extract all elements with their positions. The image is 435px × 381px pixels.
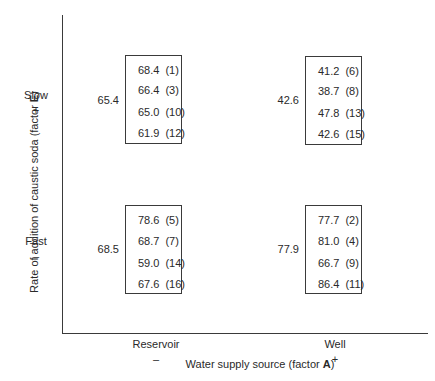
obs-value: 68.4 [138, 64, 159, 76]
run-number: (13) [345, 107, 365, 119]
obs-value: 86.4 [318, 278, 339, 290]
observation: 66.4(3) [138, 84, 179, 96]
observation: 61.9(12) [138, 127, 185, 139]
run-number: (5) [165, 214, 178, 226]
data-box-reservoir-fast: 78.6(5) 68.7(7) 59.0(14) 67.6(16) [125, 205, 182, 294]
observation: 67.6(16) [138, 278, 185, 290]
observation: 66.7(9) [318, 257, 359, 269]
x-axis-line [62, 333, 428, 334]
observation: 86.4(11) [318, 278, 364, 290]
run-number: (8) [345, 85, 358, 97]
run-number: (16) [165, 278, 185, 290]
observation: 77.7(2) [318, 214, 359, 226]
run-number: (1) [165, 64, 178, 76]
observation: 59.0(14) [138, 257, 185, 269]
run-number: (14) [165, 257, 185, 269]
y-level-label: Fast [18, 234, 54, 249]
data-box-reservoir-slow: 68.4(1) 66.4(3) 65.0(10) 61.9(12) [125, 55, 182, 144]
observation: 38.7(8) [318, 85, 359, 97]
observation: 68.7(7) [138, 235, 179, 247]
obs-value: 81.0 [318, 235, 339, 247]
y-level-sign: + [18, 103, 54, 118]
obs-value: 68.7 [138, 235, 159, 247]
y-title-text: Rate of addition of caustic soda (factor [28, 102, 40, 293]
x-title-text: Water supply source (factor [186, 358, 323, 370]
obs-value: 66.7 [318, 257, 339, 269]
observation: 42.6(15) [318, 128, 365, 140]
x-axis-title: Water supply source (factor A) [150, 358, 370, 370]
data-box-well-slow: 41.2(6) 38.7(8) 47.8(13) 42.6(15) [305, 56, 362, 145]
obs-value: 42.6 [318, 128, 339, 140]
cell-mean-reservoir-slow: 65.4 [83, 94, 119, 106]
y-level-sign: – [18, 249, 54, 264]
observation: 65.0(10) [138, 106, 185, 118]
obs-value: 78.6 [138, 214, 159, 226]
observation: 68.4(1) [138, 64, 179, 76]
run-number: (15) [345, 128, 365, 140]
obs-value: 59.0 [138, 257, 159, 269]
observation: 41.2(6) [318, 65, 359, 77]
y-axis-line [62, 15, 63, 333]
x-title-suffix: ) [331, 358, 335, 370]
run-number: (6) [345, 65, 358, 77]
observation: 81.0(4) [318, 235, 359, 247]
run-number: (4) [345, 235, 358, 247]
x-title-factor: A [323, 358, 331, 370]
cell-mean-well-fast: 77.9 [263, 243, 299, 255]
y-level-fast: Fast – [18, 234, 54, 264]
obs-value: 47.8 [318, 107, 339, 119]
cell-mean-reservoir-fast: 68.5 [83, 243, 119, 255]
run-number: (9) [345, 257, 358, 269]
observation: 47.8(13) [318, 107, 365, 119]
cell-mean-well-slow: 42.6 [263, 94, 299, 106]
obs-value: 66.4 [138, 84, 159, 96]
obs-value: 65.0 [138, 106, 159, 118]
obs-value: 67.6 [138, 278, 159, 290]
x-level-label: Well [310, 337, 360, 352]
x-level-label: Reservoir [126, 337, 186, 352]
obs-value: 41.2 [318, 65, 339, 77]
run-number: (2) [345, 214, 358, 226]
data-box-well-fast: 77.7(2) 81.0(4) 66.7(9) 86.4(11) [305, 205, 362, 294]
run-number: (7) [165, 235, 178, 247]
run-number: (3) [165, 84, 178, 96]
obs-value: 38.7 [318, 85, 339, 97]
run-number: (11) [345, 278, 364, 290]
obs-value: 77.7 [318, 214, 339, 226]
run-number: (10) [165, 106, 185, 118]
y-level-slow: Slow + [18, 88, 54, 118]
y-level-label: Slow [18, 88, 54, 103]
observation: 78.6(5) [138, 214, 179, 226]
run-number: (12) [165, 127, 185, 139]
obs-value: 61.9 [138, 127, 159, 139]
